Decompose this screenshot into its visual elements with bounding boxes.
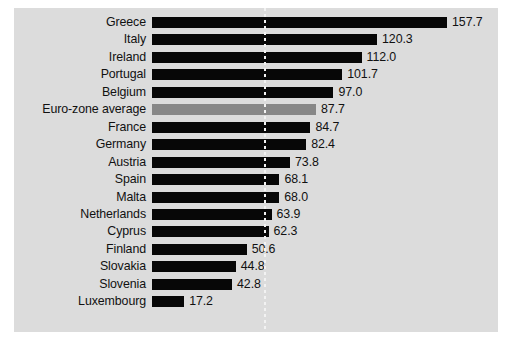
- bar-value-label: 63.9: [277, 206, 301, 223]
- category-label: Belgium: [102, 84, 146, 101]
- bar-row: Cyprus62.3: [14, 223, 498, 240]
- bar: [152, 17, 447, 28]
- category-label: Ireland: [109, 49, 146, 66]
- category-label: Germany: [96, 136, 146, 153]
- category-label: Greece: [106, 14, 146, 31]
- bar: [152, 139, 306, 150]
- bar: [152, 52, 362, 63]
- bar-row: Greece157.7: [14, 14, 498, 31]
- category-label: Euro-zone average: [42, 101, 146, 118]
- bar-value-label: 68.0: [284, 189, 308, 206]
- bar: [152, 209, 272, 220]
- bar-value-label: 17.2: [189, 293, 213, 310]
- bar-value-label: 68.1: [284, 171, 308, 188]
- category-label: Austria: [108, 154, 146, 171]
- bar-chart-panel: Greece157.7Italy120.3Ireland112.0Portuga…: [14, 8, 498, 332]
- category-label: Italy: [124, 31, 146, 48]
- bar-value-label: 87.7: [321, 101, 345, 118]
- bar-rows-container: Greece157.7Italy120.3Ireland112.0Portuga…: [14, 8, 498, 332]
- bar: [152, 122, 310, 133]
- bar-value-label: 42.8: [237, 276, 261, 293]
- bar-value-label: 97.0: [338, 84, 362, 101]
- bar-row: Luxembourg17.2: [14, 293, 498, 310]
- bar-row: Slovenia42.8: [14, 276, 498, 293]
- category-label: France: [108, 119, 146, 136]
- bar-row: Portugal101.7: [14, 66, 498, 83]
- category-label: Netherlands: [80, 206, 146, 223]
- bar: [152, 69, 342, 80]
- bar-row: Germany82.4: [14, 136, 498, 153]
- bar-value-label: 82.4: [311, 136, 335, 153]
- bar-value-label: 112.0: [367, 49, 397, 66]
- bar-value-label: 62.3: [274, 223, 298, 240]
- bar-row: Ireland112.0: [14, 49, 498, 66]
- category-label: Cyprus: [107, 223, 146, 240]
- bar: [152, 192, 279, 203]
- bar: [152, 226, 269, 237]
- category-label: Slovakia: [100, 258, 146, 275]
- bar-row: Spain68.1: [14, 171, 498, 188]
- category-label: Portugal: [101, 66, 146, 83]
- bar-value-label: 157.7: [452, 14, 483, 31]
- bar-row: Malta68.0: [14, 189, 498, 206]
- bar-row: France84.7: [14, 119, 498, 136]
- bar-value-label: 44.8: [241, 258, 265, 275]
- bar-value-label: 120.3: [382, 31, 413, 48]
- bar: [152, 87, 333, 98]
- bar-row: Finland50.6: [14, 241, 498, 258]
- bar-row: Italy120.3: [14, 31, 498, 48]
- bar: [152, 244, 247, 255]
- bar-row: Belgium97.0: [14, 84, 498, 101]
- category-label: Luxembourg: [78, 293, 146, 310]
- bar-highlight: [152, 104, 316, 115]
- category-label: Malta: [116, 189, 146, 206]
- bar: [152, 34, 377, 45]
- category-label: Spain: [115, 171, 146, 188]
- bar-row: Netherlands63.9: [14, 206, 498, 223]
- category-label: Slovenia: [99, 276, 146, 293]
- bar: [152, 279, 232, 290]
- bar-value-label: 84.7: [315, 119, 339, 136]
- category-label: Finland: [106, 241, 146, 258]
- bar-row: Slovakia44.8: [14, 258, 498, 275]
- bar: [152, 261, 236, 272]
- bar: [152, 296, 184, 307]
- bar: [152, 174, 279, 185]
- bar-value-label: 101.7: [347, 66, 378, 83]
- bar: [152, 157, 290, 168]
- bar-value-label: 50.6: [252, 241, 276, 258]
- bar-row: Euro-zone average87.7: [14, 101, 498, 118]
- bar-row: Austria73.8: [14, 154, 498, 171]
- bar-value-label: 73.8: [295, 154, 319, 171]
